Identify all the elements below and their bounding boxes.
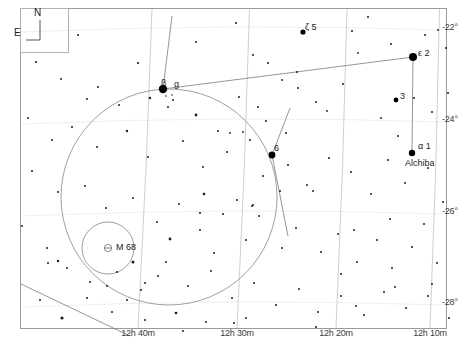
background-star xyxy=(252,54,254,56)
background-star xyxy=(235,22,237,24)
background-star xyxy=(411,246,413,248)
background-star xyxy=(437,29,439,31)
background-star xyxy=(57,191,59,193)
background-star xyxy=(172,99,174,101)
background-star xyxy=(202,166,204,168)
background-star xyxy=(351,30,353,32)
background-star xyxy=(126,130,128,132)
background-star xyxy=(231,297,233,299)
background-star xyxy=(149,97,151,99)
background-star xyxy=(205,321,207,323)
background-star xyxy=(105,207,107,209)
background-star xyxy=(27,117,29,119)
background-star xyxy=(106,285,108,287)
star-label-delta-corvi: 6 xyxy=(274,143,279,153)
background-star xyxy=(285,132,287,134)
background-star xyxy=(213,252,215,254)
background-star xyxy=(317,311,319,313)
background-star xyxy=(46,247,48,249)
background-star xyxy=(258,215,260,217)
background-star xyxy=(39,299,41,301)
background-star xyxy=(210,270,212,272)
background-star xyxy=(132,261,135,264)
background-star xyxy=(391,267,393,269)
background-star xyxy=(96,146,98,148)
background-star xyxy=(137,62,139,64)
background-star xyxy=(116,271,118,273)
background-star xyxy=(380,117,382,119)
background-star xyxy=(89,281,91,283)
compass-east-label: E xyxy=(14,27,21,38)
background-star xyxy=(405,307,407,309)
background-star xyxy=(86,297,88,299)
background-star xyxy=(328,157,330,159)
background-star xyxy=(199,229,201,231)
background-star xyxy=(355,305,357,307)
background-star xyxy=(424,34,426,36)
background-star xyxy=(249,139,251,141)
background-star xyxy=(157,275,159,277)
background-star xyxy=(195,41,197,43)
background-star xyxy=(51,139,53,141)
named-star-alpha-corvi[interactable] xyxy=(409,150,415,156)
background-star xyxy=(245,317,247,319)
background-star xyxy=(275,304,277,306)
star-label-zeta-corvi: ζ 5 xyxy=(305,22,316,32)
background-star xyxy=(337,233,339,235)
background-star xyxy=(306,184,308,186)
background-star xyxy=(297,87,299,89)
background-star xyxy=(222,213,224,215)
ra-tick-label: 12h 20m xyxy=(308,328,364,338)
background-star xyxy=(312,190,314,192)
background-star xyxy=(195,114,198,117)
background-star xyxy=(427,295,429,297)
star-label-epsilon-corvi: ε 2 xyxy=(418,48,430,58)
background-star xyxy=(389,218,391,220)
background-star xyxy=(262,175,264,177)
dec-tick-label: -26° xyxy=(442,206,458,216)
background-star xyxy=(363,314,365,316)
background-star xyxy=(238,96,240,98)
ra-tick-label: 12h 40m xyxy=(110,328,166,338)
background-star xyxy=(431,111,433,113)
background-star xyxy=(296,71,298,73)
background-star xyxy=(47,262,49,264)
background-star xyxy=(404,182,406,184)
background-star xyxy=(77,34,79,36)
background-star xyxy=(413,97,415,99)
ra-tick-label: 12h 30m xyxy=(209,328,265,338)
background-star xyxy=(370,193,372,195)
background-star xyxy=(144,319,146,321)
background-star xyxy=(84,185,86,187)
dec-tick-label: -28° xyxy=(442,297,458,307)
dso-label-m68-globular-cluster: M 68 xyxy=(116,242,136,252)
background-star xyxy=(257,106,259,108)
background-star xyxy=(315,101,317,103)
background-star xyxy=(320,251,322,253)
background-star xyxy=(350,171,352,173)
sky-canvas xyxy=(0,0,468,346)
background-star xyxy=(97,86,99,88)
background-star xyxy=(445,47,447,49)
background-star xyxy=(431,283,433,285)
background-star xyxy=(35,61,37,63)
background-star xyxy=(175,312,178,315)
background-star xyxy=(253,282,255,284)
background-star xyxy=(156,221,158,223)
background-star xyxy=(217,130,219,132)
background-star xyxy=(167,106,169,108)
background-star xyxy=(353,229,355,231)
background-star xyxy=(226,151,228,153)
background-star xyxy=(86,98,88,100)
dec-tick-label: -22° xyxy=(442,22,458,32)
background-star xyxy=(187,285,189,287)
background-star xyxy=(394,286,396,288)
dec-tick-label: -24° xyxy=(442,114,458,124)
background-star xyxy=(178,203,180,205)
background-star xyxy=(298,288,300,290)
named-star-epsilon-corvi[interactable] xyxy=(409,53,417,61)
background-star xyxy=(397,135,399,137)
star-extra-label-alpha-corvi: Alchiba xyxy=(405,158,435,168)
named-star-star-3[interactable] xyxy=(394,98,399,103)
background-star xyxy=(340,295,342,297)
